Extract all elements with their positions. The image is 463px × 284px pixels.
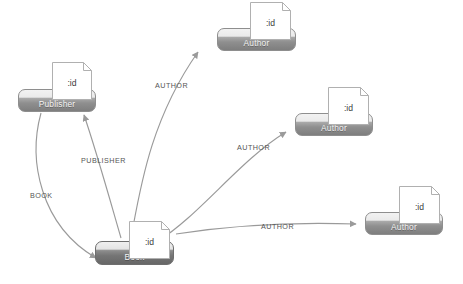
edge-label-edge-book-author-bottom: AUTHOR [261,222,294,231]
document-id-text-publisher: :id [52,78,92,88]
edge-label-edge-book-author-middle: AUTHOR [237,143,270,152]
edge-label-edge-book-publisher: PUBLISHER [81,156,126,165]
document-id-text-book: :id [129,237,170,247]
document-id-text-author-top: :id [250,18,291,28]
document-id-text-author-bottom: :id [399,202,440,212]
edge-label-edge-publisher-book: BOOK [30,191,53,200]
document-icon-author-bottom[interactable]: :id [399,186,440,224]
edge-book-to-author-top [131,52,198,238]
edge-publisher-to-book [36,113,96,258]
document-icon-publisher[interactable]: :id [52,62,92,100]
edge-book-to-publisher [84,115,121,238]
document-icon-author-top[interactable]: :id [250,2,291,40]
document-icon-book[interactable]: :id [129,221,170,259]
document-id-text-author-middle: :id [328,103,369,113]
edge-label-edge-book-author-top: AUTHOR [155,81,188,90]
document-icon-author-middle[interactable]: :id [328,87,369,125]
